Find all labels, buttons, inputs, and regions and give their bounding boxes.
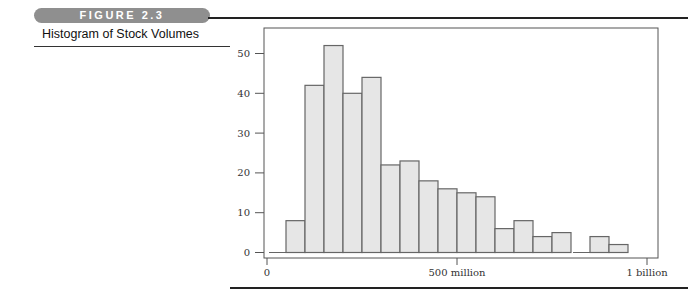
y-tick-label: 0 (244, 247, 250, 258)
histogram-bar (590, 237, 609, 253)
histogram-bar (476, 197, 495, 253)
y-tick-label: 20 (237, 167, 250, 178)
x-tick-label: 0 (264, 267, 270, 278)
histogram-bar (609, 245, 628, 253)
histogram-bar (324, 46, 343, 253)
histogram-bar (343, 93, 362, 252)
y-tick-label: 30 (237, 128, 250, 139)
x-tick-label: 1 billion (626, 267, 668, 278)
histogram-bar (495, 229, 514, 253)
histogram-bar (362, 77, 381, 252)
y-tick-label: 10 (237, 207, 250, 218)
histogram-bars (269, 46, 628, 253)
histogram-bar (457, 193, 476, 253)
histogram-bar (438, 189, 457, 253)
histogram-bar (305, 85, 324, 252)
bottom-rule (230, 287, 688, 289)
histogram-bar (552, 233, 571, 253)
histogram-chart: 01020304050 0500 million1 billion (0, 0, 696, 303)
histogram-bar (400, 161, 419, 253)
x-axis: 0500 million1 billion (264, 258, 668, 278)
y-axis: 01020304050 (237, 48, 264, 258)
histogram-bar (533, 237, 552, 253)
histogram-bar (381, 165, 400, 253)
y-tick-label: 40 (237, 88, 250, 99)
histogram-bar (419, 181, 438, 253)
histogram-bar (286, 221, 305, 253)
x-tick-label: 500 million (428, 267, 486, 278)
y-tick-label: 50 (237, 48, 250, 59)
histogram-bar (514, 221, 533, 253)
